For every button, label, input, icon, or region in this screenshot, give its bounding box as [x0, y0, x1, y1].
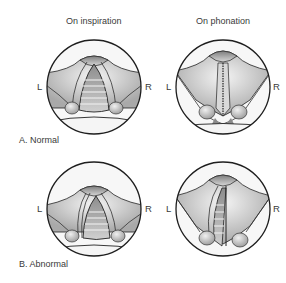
side-label-left: L: [166, 81, 171, 92]
abnormal-phonation-view: [175, 161, 271, 257]
side-label-right: R: [145, 81, 152, 92]
side-label-right: R: [273, 81, 280, 92]
row-label-abnormal: B. Abnormal: [19, 259, 68, 269]
row-label-normal: A. Normal: [19, 135, 59, 145]
normal-inspiration-view: [46, 39, 142, 135]
side-label-left: L: [37, 203, 42, 214]
column-title-phonation: On phonation: [196, 16, 250, 26]
side-label-right: R: [273, 203, 280, 214]
abnormal-inspiration-view: [46, 161, 142, 257]
side-label-left: L: [37, 81, 42, 92]
side-label-left: L: [166, 203, 171, 214]
normal-phonation-view: [175, 39, 271, 135]
column-title-inspiration: On inspiration: [66, 16, 122, 26]
side-label-right: R: [145, 203, 152, 214]
